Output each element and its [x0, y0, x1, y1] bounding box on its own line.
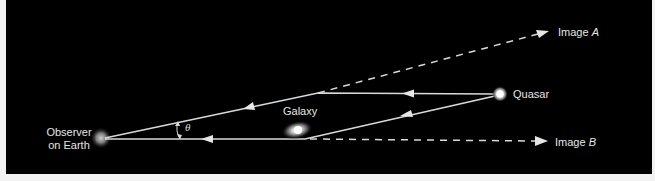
arrow-lower-diagonal-icon — [400, 110, 413, 117]
image-a-prefix: Image — [558, 26, 592, 38]
image-a-label: Image A — [558, 26, 599, 39]
galaxy-core — [294, 126, 302, 134]
observer-label-line1: Observer — [38, 126, 100, 139]
theta-label: θ — [185, 121, 190, 134]
arrow-left-icon — [402, 90, 414, 98]
lensing-diagram — [0, 0, 655, 181]
arrow-image-b-icon — [535, 136, 548, 146]
quasar-label: Quasar — [513, 88, 549, 101]
arrow-image-a-icon — [536, 30, 549, 38]
image-b-letter: B — [589, 136, 596, 148]
observer-label-line2: on Earth — [38, 139, 100, 152]
arrow-left-icon — [201, 135, 213, 143]
image-b-label: Image B — [555, 136, 596, 149]
image-b-prefix: Image — [555, 136, 589, 148]
quasar-core — [497, 91, 504, 98]
observer-label: Observer on Earth — [38, 126, 100, 152]
arrow-upper-diagonal-icon — [243, 102, 255, 110]
image-a-letter: A — [592, 26, 599, 38]
galaxy-label: Galaxy — [283, 105, 317, 118]
